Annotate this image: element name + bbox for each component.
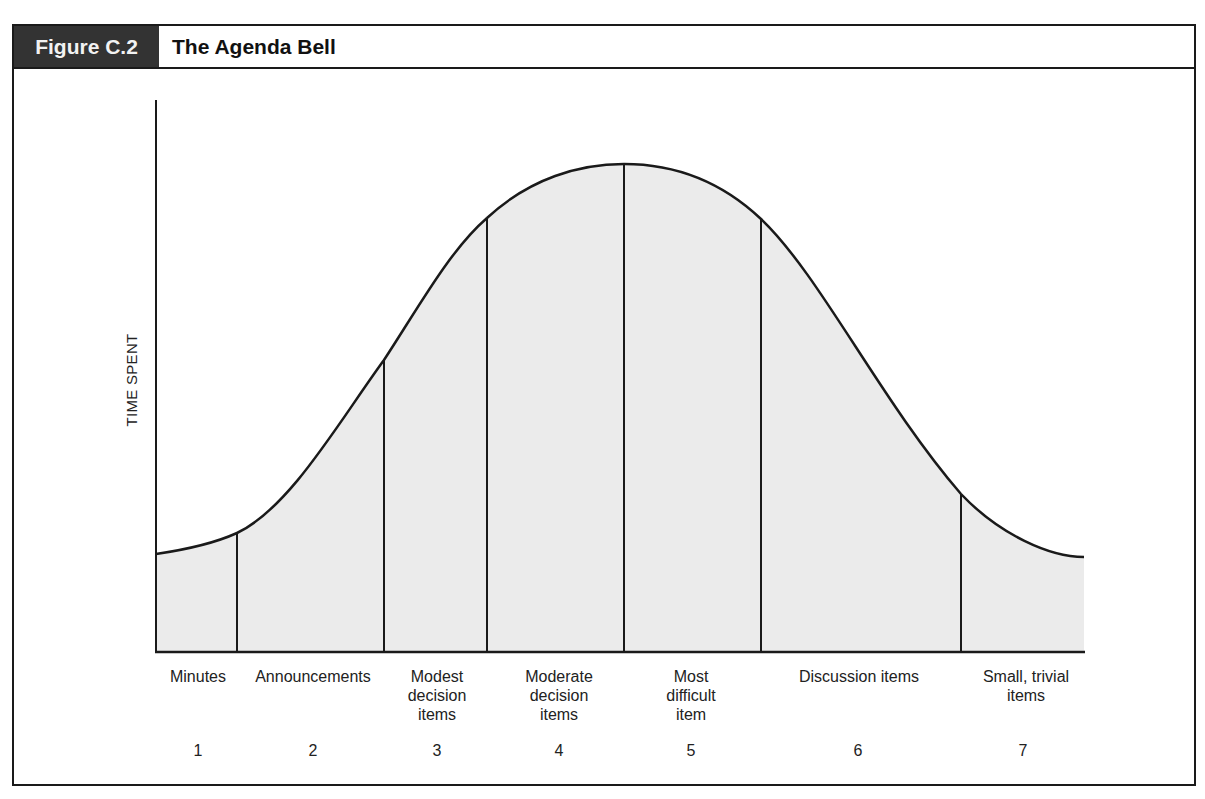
category-label-most-difficult: Most difficult item [666, 667, 716, 724]
category-number-4: 4 [555, 742, 564, 760]
category-number-1: 1 [194, 742, 203, 760]
category-number-3: 3 [433, 742, 442, 760]
category-number-6: 6 [854, 742, 863, 760]
category-label-modest-decision: Modest decision items [408, 667, 467, 724]
category-label-moderate-decision: Moderate decision items [525, 667, 593, 724]
category-label-minutes: Minutes [170, 667, 226, 686]
category-label-announcements: Announcements [255, 667, 371, 686]
category-number-2: 2 [309, 742, 318, 760]
category-number-5: 5 [687, 742, 696, 760]
category-number-7: 7 [1019, 742, 1028, 760]
category-label-small-trivial: Small, trivial items [983, 667, 1069, 705]
bell-area [156, 164, 1084, 652]
category-label-discussion: Discussion items [799, 667, 919, 686]
y-axis-label: TIME SPENT [123, 333, 140, 426]
